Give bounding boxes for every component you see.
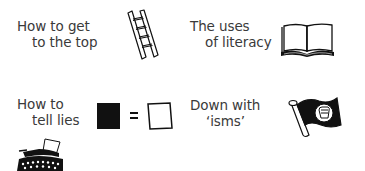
typewriter-icon — [15, 137, 65, 171]
caption-get-to-top: How to get to the top — [17, 18, 97, 50]
caption-line1: How to get — [17, 18, 90, 34]
caption-line1: Down with — [190, 97, 260, 113]
caption-line1: The uses — [190, 18, 250, 34]
black-equals-white-icon — [96, 101, 174, 131]
caption-down-with-isms: Down with ‘isms’ — [190, 97, 260, 129]
fist-flag-icon — [281, 95, 343, 139]
open-book-icon — [280, 21, 336, 58]
caption-line2: tell lies — [17, 112, 79, 128]
caption-tell-lies: How to tell lies — [17, 96, 79, 128]
caption-line2: of literacy — [190, 34, 272, 50]
ladder-icon — [126, 9, 160, 61]
caption-uses-of-literacy: The uses of literacy — [190, 18, 272, 50]
caption-line2: to the top — [17, 34, 97, 50]
caption-line1: How to — [17, 96, 64, 112]
caption-line2: ‘isms’ — [190, 113, 260, 129]
